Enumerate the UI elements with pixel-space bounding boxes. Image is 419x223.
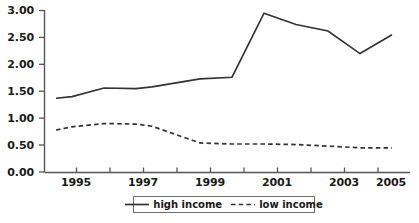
y-tick-label-1: 1.00 — [0, 112, 34, 125]
y-tick-label-2_5: 2.50 — [0, 31, 34, 44]
chart-legend: high income low income — [133, 196, 315, 213]
legend-entry-high-income: high income — [125, 200, 222, 210]
y-axis-ticks — [39, 11, 45, 173]
x-tick-label-1999: 1999 — [190, 176, 230, 189]
plot-area — [0, 0, 419, 223]
series-line-low-income — [56, 124, 392, 148]
y-tick-label-1_5: 1.50 — [0, 85, 34, 98]
legend-entry-low-income: low income — [231, 200, 323, 210]
legend-swatch-solid-icon — [125, 201, 149, 208]
legend-label-high-income: high income — [153, 200, 222, 210]
x-tick-label-1995: 1995 — [56, 176, 96, 189]
x-tick-label-2001: 2001 — [257, 176, 297, 189]
line-chart: 3.00 2.50 2.00 1.50 1.00 0.50 0.00 1995 … — [0, 0, 419, 223]
y-tick-label-0_5: 0.50 — [0, 139, 34, 152]
x-tick-label-2005: 2005 — [371, 176, 411, 189]
y-tick-label-3: 3.00 — [0, 4, 34, 17]
legend-swatch-dashed-icon — [231, 201, 255, 208]
y-tick-label-2: 2.00 — [0, 58, 34, 71]
y-tick-label-0: 0.00 — [0, 166, 34, 179]
x-axis-ticks — [77, 168, 379, 173]
legend-label-low-income: low income — [259, 200, 323, 210]
x-tick-label-1997: 1997 — [123, 176, 163, 189]
x-tick-label-2003: 2003 — [324, 176, 364, 189]
series-line-high-income — [56, 13, 392, 98]
